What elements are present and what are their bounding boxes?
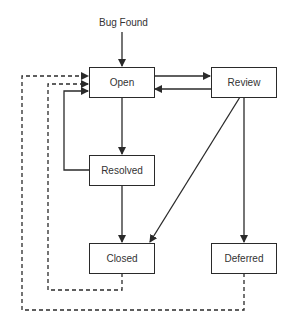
node-open-label: Open [110, 77, 134, 88]
node-resolved-label: Resolved [101, 165, 143, 176]
node-deferred-label: Deferred [225, 253, 264, 264]
bug-lifecycle-diagram: Bug Found Open Review Resolved Closed De… [0, 0, 297, 335]
edge-deferred-open [22, 76, 244, 310]
node-open[interactable]: Open [89, 67, 155, 98]
node-closed[interactable]: Closed [89, 243, 155, 274]
edge-resolved-open [64, 91, 89, 170]
node-deferred[interactable]: Deferred [211, 243, 277, 274]
node-review[interactable]: Review [211, 67, 277, 98]
node-resolved[interactable]: Resolved [89, 155, 155, 186]
start-label: Bug Found [99, 17, 148, 28]
node-review-label: Review [228, 77, 261, 88]
edge-review-closed [150, 97, 240, 242]
node-closed-label: Closed [106, 253, 137, 264]
